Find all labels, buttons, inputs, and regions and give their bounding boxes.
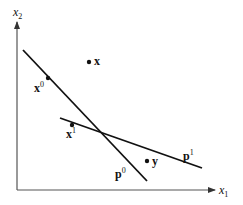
point-x0 (46, 76, 50, 80)
point-x0-label: x0 (34, 80, 44, 95)
line-p0-label-sup: 0 (122, 166, 126, 175)
point-x0-label-sup: 0 (40, 80, 44, 89)
x-axis-label: x1 (218, 183, 228, 199)
line-p1 (60, 118, 202, 168)
point-x-label-base: x (94, 54, 100, 68)
point-y-label-base: y (152, 154, 158, 168)
point-x (87, 60, 91, 64)
line-p0 (23, 50, 147, 181)
y-axis-label: x2 (12, 5, 22, 21)
y-axis-label-sub: 2 (18, 12, 22, 21)
point-x1-label-sup: 1 (72, 126, 76, 135)
point-x1-label: x1 (66, 126, 76, 141)
line-p0-label: p0 (115, 166, 126, 181)
line-p1-label: p1 (183, 148, 194, 163)
diagram-canvas: x1 x2 p0 p1 x x0 x1 y (0, 0, 243, 205)
x-axis-label-sub: 1 (224, 190, 228, 199)
line-p1-label-sup: 1 (190, 148, 194, 157)
point-y (145, 159, 149, 163)
point-y-label: y (152, 154, 158, 168)
point-x-label: x (94, 54, 100, 68)
